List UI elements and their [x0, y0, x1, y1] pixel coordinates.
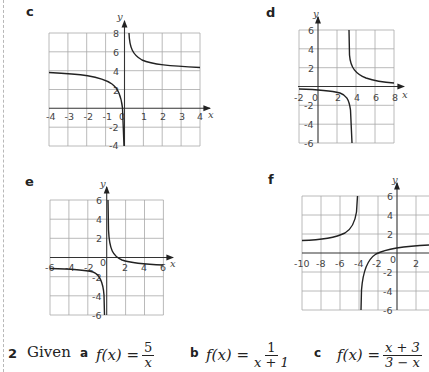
- question-2: 2 Given a f(x) = 5 x b f(x) = 1 x + 1 c …: [8, 338, 429, 372]
- svg-text:-3: -3: [65, 111, 74, 122]
- svg-text:y: y: [312, 8, 319, 19]
- svg-text:6: 6: [160, 262, 166, 273]
- graph-d-curve-left: [299, 89, 352, 143]
- svg-text:-2: -2: [372, 258, 381, 269]
- svg-text:2: 2: [122, 262, 128, 273]
- svg-text:y: y: [391, 174, 398, 185]
- svg-text:0: 0: [100, 257, 106, 268]
- svg-text:-4: -4: [354, 258, 363, 269]
- svg-text:3: 3: [179, 111, 185, 122]
- part-a-numerator: 5: [142, 341, 154, 356]
- svg-text:4: 4: [113, 66, 119, 77]
- part-a-denominator: x: [143, 356, 154, 370]
- part-b-label: b: [190, 346, 199, 360]
- graph-c-curve-right: [129, 33, 200, 68]
- svg-text:8: 8: [113, 28, 119, 39]
- svg-text:-2: -2: [383, 267, 392, 278]
- svg-text:4: 4: [96, 214, 102, 225]
- part-c-expression: f(x) = x + 3 3 − x: [337, 338, 422, 372]
- svg-text:-2: -2: [109, 122, 118, 133]
- svg-text:-6: -6: [335, 258, 344, 269]
- svg-text:-2: -2: [92, 272, 101, 283]
- graph-e: x y -6 -4 -2 0 2 4 6 6 4 2 -2 -4 -6: [45, 178, 176, 321]
- svg-text:-6: -6: [45, 262, 54, 273]
- part-c-fraction: x + 3 3 − x: [383, 341, 422, 370]
- svg-text:-2: -2: [84, 111, 93, 122]
- part-a-fraction: 5 x: [142, 341, 154, 370]
- part-c-numerator: x + 3: [383, 341, 422, 356]
- svg-text:x: x: [208, 109, 214, 120]
- part-c-denominator: 3 − x: [383, 356, 422, 370]
- svg-text:8: 8: [392, 92, 398, 103]
- svg-text:-6: -6: [304, 138, 313, 149]
- svg-text:6: 6: [373, 92, 379, 103]
- question-word: Given: [27, 343, 71, 361]
- svg-text:4: 4: [308, 44, 314, 55]
- svg-text:0: 0: [390, 254, 396, 265]
- graph-e-curve-right: [108, 200, 163, 265]
- svg-text:2: 2: [160, 111, 166, 122]
- part-a-label: a: [80, 346, 88, 360]
- svg-text:-4: -4: [92, 291, 101, 302]
- svg-text:2: 2: [308, 63, 314, 74]
- graphs-canvas: x y -4 -3 -2 -1 0 1 2 3 4 8 6 4 2 -2 -4: [0, 0, 429, 372]
- svg-text:6: 6: [113, 47, 119, 58]
- part-a-expression: f(x) = 5 x: [96, 338, 154, 372]
- part-a-lhs: f(x) =: [96, 346, 139, 364]
- svg-text:-8: -8: [316, 258, 325, 269]
- svg-text:4: 4: [354, 92, 360, 103]
- svg-text:-4: -4: [46, 111, 55, 122]
- svg-text:-6: -6: [92, 310, 101, 321]
- part-c-lhs: f(x) =: [337, 346, 380, 364]
- part-b-lhs: f(x) =: [206, 346, 249, 364]
- svg-text:-6: -6: [383, 305, 392, 316]
- svg-text:2: 2: [413, 258, 419, 269]
- svg-text:-2: -2: [294, 92, 303, 103]
- graph-c: x y -4 -3 -2 -1 0 1 2 3 4 8 6 4 2 -2 -4: [46, 11, 214, 151]
- svg-text:-1: -1: [103, 111, 112, 122]
- svg-text:y: y: [116, 11, 123, 22]
- part-b-expression: f(x) = 1 x + 1: [206, 338, 291, 372]
- svg-text:4: 4: [387, 210, 393, 221]
- part-b-fraction: 1 x + 1: [252, 341, 291, 370]
- graph-f: y -10 -8 -6 -4 -2 0 2 6 4 2 -2 -4 -6: [294, 174, 429, 316]
- svg-text:-10: -10: [294, 258, 310, 269]
- part-b-numerator: 1: [265, 341, 277, 356]
- svg-text:2: 2: [387, 229, 393, 240]
- svg-text:6: 6: [96, 195, 102, 206]
- svg-text:-4: -4: [383, 286, 392, 297]
- question-number: 2: [8, 346, 17, 361]
- graph-d: x y -2 0 2 4 6 8 6 4 2 -2 -4 -6: [294, 8, 408, 149]
- svg-text:6: 6: [308, 25, 314, 36]
- svg-text:-4: -4: [109, 140, 118, 151]
- svg-text:4: 4: [197, 111, 203, 122]
- part-c-label: c: [314, 346, 321, 360]
- svg-text:-4: -4: [65, 262, 74, 273]
- svg-text:6: 6: [387, 191, 393, 202]
- svg-text:x: x: [170, 258, 176, 269]
- svg-text:x: x: [402, 89, 408, 100]
- part-b-denominator: x + 1: [252, 356, 291, 370]
- svg-text:-4: -4: [304, 119, 313, 130]
- svg-text:-2: -2: [304, 100, 313, 111]
- svg-text:2: 2: [96, 233, 102, 244]
- svg-text:1: 1: [141, 111, 147, 122]
- svg-text:y: y: [99, 178, 106, 189]
